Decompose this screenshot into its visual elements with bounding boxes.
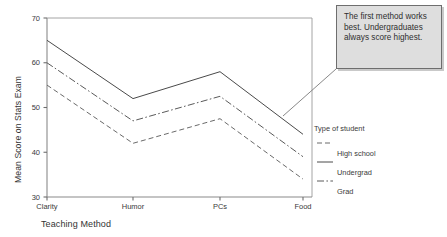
annotation-callout-text: The first method works best. Undergradua…	[344, 12, 438, 44]
legend-item-undergrad: Undergrad	[337, 168, 372, 177]
series-line-high-school	[47, 85, 303, 179]
y-tick-label-70: 70	[22, 15, 40, 23]
annotation-callout-box: The first method works best. Undergradua…	[336, 5, 442, 69]
y-axis-title: Mean Score on Stats Exam	[14, 76, 23, 183]
legend-item-high-school: High school	[337, 149, 376, 158]
callout-leader-line	[283, 69, 336, 116]
legend-title: Type of student	[314, 124, 365, 133]
y-tick-label-30: 30	[22, 194, 40, 202]
x-axis-title: Teaching Method	[41, 220, 111, 229]
leader-line-stroke	[283, 69, 336, 116]
x-tick-label-humor: Humor	[110, 203, 156, 211]
series-lines	[47, 40, 303, 179]
y-tick-label-50: 50	[22, 104, 40, 112]
x-tick-label-food: Food	[280, 203, 326, 211]
x-tick-label-clarity: Clarity	[24, 203, 70, 211]
series-line-undergrad	[47, 40, 303, 134]
x-tick-label-pcs: PCs	[197, 203, 243, 211]
y-tick-label-40: 40	[22, 149, 40, 157]
legend-key-lines	[317, 143, 333, 181]
y-tick-label-60: 60	[22, 59, 40, 67]
series-line-grad	[47, 63, 303, 157]
chart-figure: 70 60 50 40 30 Clarity Humor PCs Food Me…	[0, 0, 447, 237]
legend-item-grad: Grad	[337, 187, 353, 196]
